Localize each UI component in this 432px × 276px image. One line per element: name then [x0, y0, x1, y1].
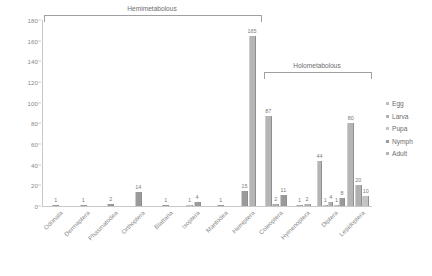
bar-value-label: 1 [335, 197, 338, 203]
legend-label: Nymph [392, 138, 413, 145]
group-label-hemimetabolous: Hemimetabolous [127, 5, 176, 12]
bar-group: 2 [97, 20, 125, 206]
bar: 11 [280, 195, 287, 206]
y-axis-tick-mark [38, 102, 41, 103]
y-axis-tick-mark [38, 61, 41, 62]
bar-value-label: 44 [317, 153, 323, 159]
bar-value-label: 8 [341, 190, 344, 196]
x-axis-label-dermaptera: Dermaptera [63, 209, 91, 237]
bar-group: 441418 [317, 20, 345, 206]
bar: 2 [304, 204, 311, 206]
bar: 10 [362, 196, 369, 206]
bar: 4 [194, 202, 201, 206]
x-axis-label-isoptera: Isoptera [180, 209, 201, 230]
bar-value-label: 11 [281, 187, 287, 193]
bar-value-label: 4 [329, 194, 332, 200]
y-axis-tick-label: 40 [31, 161, 38, 168]
bar-value-label: 87 [265, 108, 271, 114]
plot-area: 112141141151658721112441418802010 [42, 20, 372, 206]
y-axis-tick-mark [38, 20, 41, 21]
bar-group: 1 [207, 20, 235, 206]
y-axis-tick-label: 20 [31, 182, 38, 189]
bar: 2 [107, 204, 114, 206]
bar-value-label: 2 [306, 196, 309, 202]
y-axis-tick-mark [38, 164, 41, 165]
x-axis-label-lepidoptera: Lepidoptera [338, 209, 366, 237]
x-axis-label-odonata: Odonata [42, 209, 64, 231]
x-axis-label-hemiptera: Hemiptera [231, 209, 256, 234]
x-axis-label-phasmatodea: Phasmatodea [86, 209, 118, 241]
bar-chart: 020406080100120140160180 Hemimetabolous … [0, 0, 432, 276]
bar-value-label: 1 [82, 197, 85, 203]
legend-item-pupa[interactable]: Pupa [386, 125, 413, 132]
bar-group: 12 [290, 20, 318, 206]
x-axis-label-diptera: Diptera [319, 209, 338, 228]
y-axis-tick-label: 160 [27, 37, 38, 44]
bar-value-label: 1 [219, 197, 222, 203]
bar-value-label: 1 [298, 197, 301, 203]
bar: 1 [52, 205, 59, 206]
bar-value-label: 10 [363, 188, 369, 194]
legend-label: Adult [392, 150, 407, 157]
bar: 1 [217, 205, 224, 206]
y-axis-tick-label: 100 [27, 99, 38, 106]
bar-group: 15165 [235, 20, 263, 206]
bar-value-label: 1 [188, 197, 191, 203]
bar-value-label: 15 [241, 183, 247, 189]
bar-group: 14 [125, 20, 153, 206]
bar: 165 [249, 36, 256, 207]
bar-value-label: 2 [274, 196, 277, 202]
bar-value-label: 80 [348, 115, 354, 121]
bar: 1 [296, 205, 303, 206]
y-axis-tick-label: 120 [27, 79, 38, 86]
bar-group: 87211 [262, 20, 290, 206]
bar: 80 [347, 123, 354, 206]
legend-swatch-icon [386, 127, 389, 130]
bar: 1 [186, 205, 193, 206]
legend-item-egg[interactable]: Egg [386, 100, 413, 107]
bar-group: 1 [70, 20, 98, 206]
bar-value-label: 14 [135, 184, 141, 190]
bar-group: 1 [152, 20, 180, 206]
y-axis-tick-label: 180 [27, 17, 38, 24]
y-axis-tick-label: 60 [31, 141, 38, 148]
bar: 20 [355, 185, 362, 206]
legend-item-larva[interactable]: Larva [386, 113, 413, 120]
legend-swatch-icon [386, 115, 389, 118]
legend-swatch-icon [386, 140, 389, 143]
bar-value-label: 1 [54, 197, 57, 203]
chart-legend: EggLarvaPupaNymphAdult [386, 100, 413, 157]
x-axis-line [42, 206, 372, 207]
legend-swatch-icon [386, 102, 389, 105]
y-axis-tick-mark [38, 144, 41, 145]
bar: 44 [317, 161, 322, 206]
legend-swatch-icon [386, 152, 389, 155]
y-axis: 020406080100120140160180 [0, 20, 38, 206]
bar: 87 [265, 116, 272, 206]
bar: 15 [241, 191, 248, 207]
bar: 2 [272, 204, 279, 206]
y-axis-tick-mark [38, 123, 41, 124]
bar-group: 1 [42, 20, 70, 206]
bar-value-label: 1 [164, 197, 167, 203]
bar: 1 [334, 205, 339, 206]
bar-group: 802010 [345, 20, 373, 206]
bar: 1 [162, 205, 169, 206]
y-axis-tick-label: 140 [27, 58, 38, 65]
x-axis-label-coleoptera: Coleoptera [257, 209, 284, 236]
legend-label: Egg [392, 100, 404, 107]
bar-value-label: 4 [196, 194, 199, 200]
bar-value-label: 165 [248, 28, 257, 34]
legend-item-nymph[interactable]: Nymph [386, 138, 413, 145]
y-axis-tick-label: 80 [31, 120, 38, 127]
y-axis-tick-mark [38, 40, 41, 41]
y-axis-tick-mark [38, 82, 41, 83]
x-axis-label-orthoptera: Orthoptera [120, 209, 146, 235]
bar-value-label: 1 [324, 197, 327, 203]
x-axis-label-hymenoptera: Hymenoptera [280, 209, 312, 241]
bar-value-label: 2 [109, 196, 112, 202]
bar-value-label: 20 [355, 177, 361, 183]
x-axis-label-mantodea: Mantodea [204, 209, 229, 234]
y-axis-tick-mark [38, 185, 41, 186]
legend-item-adult[interactable]: Adult [386, 150, 413, 157]
